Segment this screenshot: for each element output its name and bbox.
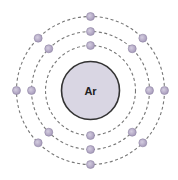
electron — [13, 87, 21, 95]
element-symbol: Ar — [84, 85, 97, 97]
electron — [28, 87, 36, 95]
electron — [34, 139, 42, 147]
electron — [87, 146, 95, 154]
electron — [87, 42, 95, 50]
electron — [45, 45, 53, 53]
electron — [87, 161, 95, 169]
nucleus: Ar — [62, 62, 120, 120]
electron — [87, 13, 95, 21]
electron — [146, 87, 154, 95]
electron — [34, 34, 42, 42]
electron — [139, 34, 147, 42]
electron — [87, 132, 95, 140]
electron — [128, 128, 136, 136]
electron — [45, 128, 53, 136]
electron — [87, 28, 95, 36]
bohr-diagram: Ar — [0, 0, 178, 180]
atom-diagram: Ar — [0, 0, 178, 180]
electron — [161, 87, 169, 95]
electron — [128, 45, 136, 53]
electron — [139, 139, 147, 147]
